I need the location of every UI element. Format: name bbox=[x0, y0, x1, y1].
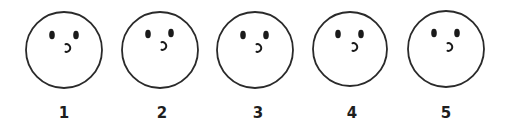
face-2 bbox=[122, 12, 198, 88]
right-eye-icon bbox=[263, 31, 269, 40]
left-eye-icon bbox=[145, 30, 151, 39]
left-eye-icon bbox=[49, 31, 55, 40]
face-label-2: 2 bbox=[150, 105, 174, 121]
face-outline-circle bbox=[313, 12, 387, 86]
face-label-1: 1 bbox=[52, 105, 76, 121]
left-eye-icon bbox=[240, 31, 246, 40]
face-label-4: 4 bbox=[340, 105, 364, 121]
face-outline-circle bbox=[217, 12, 293, 88]
right-eye-icon bbox=[73, 31, 79, 40]
right-eye-icon bbox=[168, 29, 174, 38]
right-eye-icon bbox=[454, 29, 460, 38]
face-outline-circle bbox=[408, 11, 484, 87]
face-outline-circle bbox=[26, 12, 102, 88]
left-eye-icon bbox=[431, 29, 437, 38]
face-5 bbox=[408, 11, 484, 87]
face-label-5: 5 bbox=[434, 105, 458, 121]
face-1 bbox=[26, 12, 102, 88]
face-4 bbox=[313, 12, 387, 86]
left-eye-icon bbox=[335, 30, 341, 39]
face-outline-circle bbox=[122, 12, 198, 88]
faces-figure: 1 2 3 4 5 bbox=[0, 0, 505, 132]
right-eye-icon bbox=[358, 30, 364, 39]
face-3 bbox=[217, 12, 293, 88]
face-label-3: 3 bbox=[246, 105, 270, 121]
